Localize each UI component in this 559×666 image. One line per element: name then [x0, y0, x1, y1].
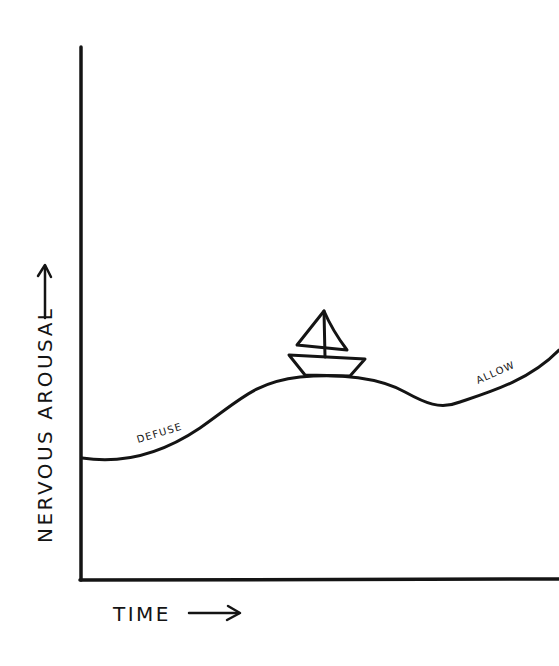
right-arrow-icon	[189, 606, 240, 620]
boat-sail	[297, 311, 347, 350]
arousal-wave-curve	[82, 350, 559, 460]
x-axis-label: TIME	[112, 602, 171, 626]
x-axis-line	[80, 579, 559, 580]
sailboat-icon	[289, 311, 365, 376]
boat-mast	[324, 311, 325, 357]
y-axis-label: NERVOUS AROUSAL	[33, 306, 57, 543]
arousal-wave-diagram: DEFUSE ALLOW NERVOUS AROUSAL TIME	[0, 0, 559, 666]
boat-hull	[289, 355, 365, 376]
